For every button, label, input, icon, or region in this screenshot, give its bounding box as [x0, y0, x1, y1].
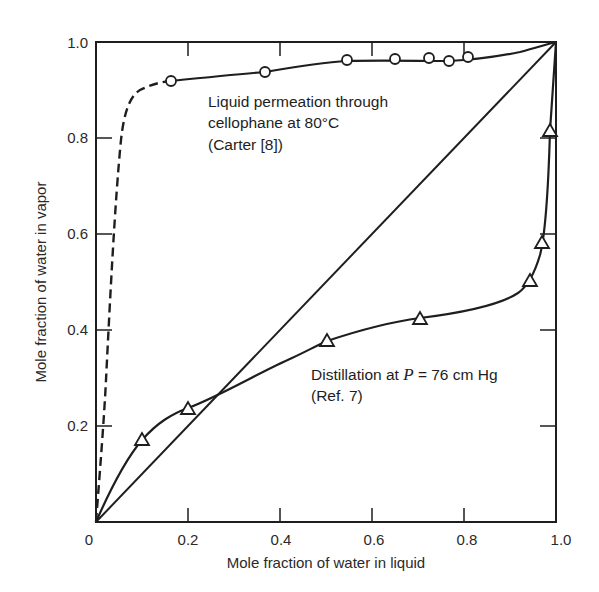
- annotation-line: cellophane at 80°C: [208, 114, 339, 131]
- y-tick-label: 1.0: [67, 34, 88, 51]
- annotation-line: (Carter [8]): [208, 136, 283, 153]
- circle-marker: [463, 52, 473, 62]
- triangle-marker: [535, 236, 549, 248]
- x-tick-label: 0.2: [178, 531, 199, 548]
- circle-marker: [444, 56, 454, 66]
- x-tick-label: 0.6: [364, 531, 385, 548]
- x-tick-label: 1.0: [551, 531, 572, 548]
- y-tick-label: 0.2: [67, 417, 88, 434]
- y-tick-label: 0.8: [67, 129, 88, 146]
- x-axis-title: Mole fraction of water in liquid: [227, 554, 425, 571]
- annotation-line: Distillation at P = 76 cm Hg: [311, 365, 498, 384]
- chart: 0 0.2 0.4 0.6 0.8 1.0 0.2 0.4 0.6 0.8 1.…: [0, 0, 599, 592]
- y-tick-labels: 0.2 0.4 0.6 0.8 1.0: [67, 34, 88, 434]
- x-tick-label: 0.4: [271, 531, 292, 548]
- permeation-solid-curve: [171, 42, 556, 81]
- annotation-line: (Ref. 7): [311, 387, 363, 404]
- annotation-prefix: Distillation at: [311, 366, 403, 383]
- pressure-symbol: P: [402, 365, 413, 384]
- y-tick-label: 0.4: [67, 321, 88, 338]
- circle-marker: [260, 67, 270, 77]
- circle-marker: [342, 55, 352, 65]
- x-tick-label: 0: [85, 531, 93, 548]
- y-tick-label: 0.6: [67, 225, 88, 242]
- annotation-suffix: = 76 cm Hg: [414, 366, 498, 383]
- distillation-annotation: Distillation at P = 76 cm Hg (Ref. 7): [311, 365, 498, 404]
- annotation-line: Liquid permeation through: [208, 93, 388, 110]
- circle-marker: [166, 76, 176, 86]
- circle-marker: [390, 54, 400, 64]
- triangle-marker: [523, 274, 537, 286]
- permeation-annotation: Liquid permeation through cellophane at …: [208, 93, 388, 153]
- x-tick-labels: 0 0.2 0.4 0.6 0.8 1.0: [85, 531, 572, 548]
- triangle-marker: [181, 402, 195, 414]
- permeation-markers: [166, 52, 473, 86]
- triangle-marker: [543, 124, 557, 136]
- circle-marker: [424, 53, 434, 63]
- y-axis-title: Mole fraction of water in vapor: [32, 182, 49, 383]
- x-tick-label: 0.8: [457, 531, 478, 548]
